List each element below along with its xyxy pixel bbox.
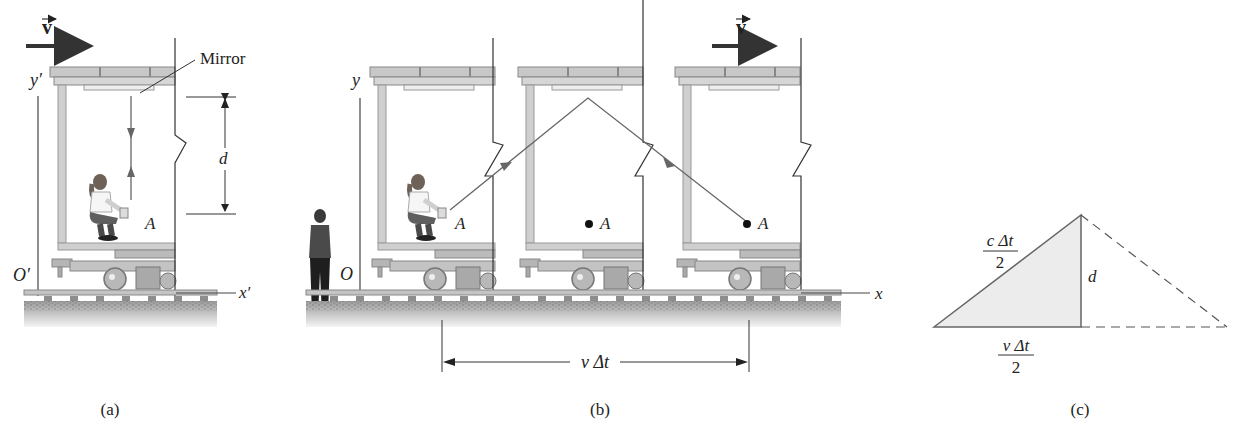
caption-c: (c) (1071, 400, 1090, 419)
y-label: y (350, 70, 360, 90)
height-d-label: d (1088, 267, 1097, 286)
base-numerator: v Δt (1003, 336, 1031, 355)
dim-arrow-left-icon (443, 358, 455, 366)
panel-a: v y′ Mirror A d O′ (13, 16, 251, 419)
dim-arrow-right-icon (736, 358, 748, 366)
caption-b: (b) (590, 400, 610, 419)
point-a-dot (585, 220, 593, 228)
hypotenuse-denominator: 2 (996, 253, 1005, 272)
cut-line (175, 38, 186, 296)
hypotenuse-numerator: c Δt (987, 231, 1015, 250)
distance-d-label: d (219, 149, 228, 168)
caption-a: (a) (101, 400, 120, 419)
point-a-label-2: A (599, 214, 611, 233)
point-a-label-3: A (757, 214, 769, 233)
point-a-label: A (144, 214, 156, 233)
down-arrow-icon (127, 128, 135, 139)
point-a-label-1: A (454, 214, 466, 233)
base-denominator: 2 (1012, 358, 1021, 377)
x-label: x (874, 284, 883, 303)
path-arrow-icon (663, 157, 675, 168)
displacement-label: v Δt (581, 352, 610, 372)
y-prime-label: y′ (28, 70, 43, 90)
figure-canvas: v y′ Mirror A d O′ (0, 0, 1238, 432)
panel-b: y v A A A O (306, 0, 883, 419)
x-prime-label: x′ (238, 283, 251, 302)
up-arrow-icon (127, 166, 135, 177)
dashed-hypotenuse (1081, 215, 1227, 327)
origin-o-prime-label: O′ (13, 265, 31, 285)
mirror-label: Mirror (200, 49, 246, 68)
origin-o-label: O (340, 264, 353, 284)
panel-c: c Δt 2 d v Δt 2 (c) (934, 215, 1230, 419)
point-a-dot (743, 220, 751, 228)
path-arrow-icon (500, 162, 512, 171)
